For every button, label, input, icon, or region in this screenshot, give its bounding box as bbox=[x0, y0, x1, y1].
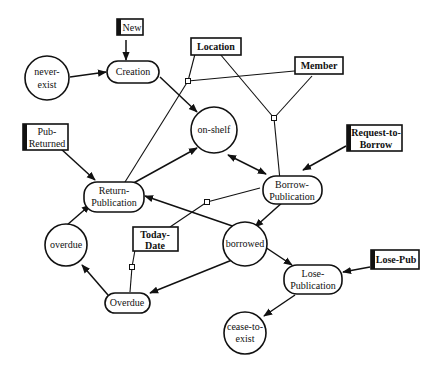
svg-text:Location: Location bbox=[197, 41, 235, 52]
svg-text:cease-to-: cease-to- bbox=[227, 321, 263, 332]
entity-today-date: Today- Date bbox=[133, 227, 178, 251]
state-never-exist: never- exist bbox=[25, 56, 69, 100]
state-overdue: overdue bbox=[45, 224, 87, 266]
svg-text:Creation: Creation bbox=[116, 66, 150, 77]
state-borrowed: borrowed bbox=[223, 222, 267, 266]
svg-text:Returned: Returned bbox=[29, 138, 66, 149]
association-lines bbox=[120, 54, 312, 292]
svg-text:Overdue: Overdue bbox=[110, 297, 145, 308]
entity-member: Member bbox=[295, 57, 343, 74]
svg-text:Lose-Pub: Lose-Pub bbox=[376, 254, 417, 265]
svg-text:on-shelf: on-shelf bbox=[198, 124, 231, 135]
svg-text:exist: exist bbox=[38, 79, 57, 90]
event-borrow-publication: Borrow- Publication bbox=[263, 176, 322, 204]
svg-text:Today-: Today- bbox=[140, 229, 170, 240]
event-return-publication: Return- Publication bbox=[84, 182, 144, 212]
event-lose-publication: Lose- Publication bbox=[284, 265, 342, 294]
svg-text:Pub-: Pub- bbox=[38, 126, 57, 137]
svg-text:New: New bbox=[123, 22, 143, 33]
svg-text:Publication: Publication bbox=[269, 191, 315, 202]
trigger-lose-pub: Lose-Pub bbox=[371, 250, 419, 269]
svg-text:overdue: overdue bbox=[50, 239, 83, 250]
svg-text:Request-to-: Request-to- bbox=[351, 127, 400, 138]
svg-text:never-: never- bbox=[34, 66, 59, 77]
svg-text:Publication: Publication bbox=[290, 280, 336, 291]
svg-text:Member: Member bbox=[301, 60, 338, 71]
state-cease-to-exist: cease-to- exist bbox=[224, 312, 266, 354]
event-overdue: Overdue bbox=[105, 293, 150, 313]
svg-text:Date: Date bbox=[145, 240, 166, 251]
state-diagram: never- exist on-shelf overdue borrowed c… bbox=[0, 0, 446, 373]
svg-text:Borrow-: Borrow- bbox=[275, 179, 309, 190]
trigger-pub-returned: Pub- Returned bbox=[23, 124, 68, 150]
svg-text:Return-: Return- bbox=[99, 185, 130, 196]
svg-text:Borrow: Borrow bbox=[360, 139, 393, 150]
svg-text:Publication: Publication bbox=[91, 197, 137, 208]
svg-text:exist: exist bbox=[236, 333, 255, 344]
svg-text:borrowed: borrowed bbox=[226, 238, 264, 249]
state-on-shelf: on-shelf bbox=[191, 107, 237, 153]
svg-text:Lose-: Lose- bbox=[302, 268, 325, 279]
entity-location: Location bbox=[191, 38, 241, 55]
trigger-new: New bbox=[117, 19, 143, 35]
event-creation: Creation bbox=[107, 61, 159, 83]
trigger-request-to-borrow: Request-to- Borrow bbox=[347, 125, 402, 151]
